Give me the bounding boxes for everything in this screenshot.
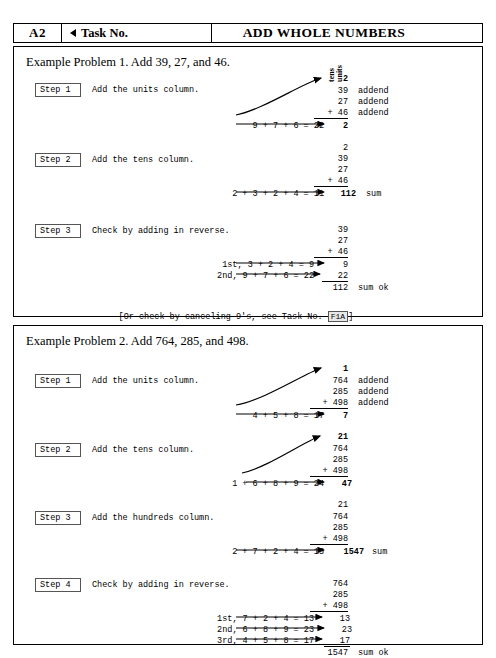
step-label-2: Step 2 [35, 153, 81, 167]
step-label-3: Step 3 [35, 224, 81, 238]
carry-digit-3: 21 [310, 500, 348, 510]
addend-value: 764 [310, 444, 348, 454]
addend-value: + 46 [314, 247, 348, 258]
step-label-2: Step 2 [35, 443, 81, 457]
step-equation-1: 4 + 5 + 8 = 17 [154, 411, 324, 421]
addend-value: 285 [310, 455, 348, 465]
check-result: 22 [322, 271, 348, 282]
check-equation: 2nd, 6 + 8 + 9 = 23 [134, 625, 314, 635]
step-text-1: Add the units column. [92, 85, 199, 95]
step-equation-2: 1 + 6 + 8 + 9 = 24 [124, 479, 324, 489]
worksheet-page: A2 Task No. ADD WHOLE NUMBERS Example Pr… [0, 0, 496, 658]
addend-value: 764 [310, 376, 348, 386]
addend-tag: addend [358, 86, 389, 96]
check-result: 13 [324, 614, 350, 624]
step-text-3: Check by adding in reverse. [92, 226, 230, 236]
addend-value: 27 [314, 165, 348, 175]
step-label-1: Step 1 [35, 374, 81, 388]
addend-value: 39 [314, 86, 348, 96]
triangle-left-icon[interactable] [70, 29, 76, 37]
carry-digit-1: 2 [326, 74, 348, 84]
step-equation-2: 2 + 3 + 2 + 4 = 11 [134, 189, 324, 199]
addend-value: + 498 [310, 601, 348, 612]
check-equation: 1st, 7 + 2 + 4 = 13 [134, 614, 314, 624]
step-label-4: Step 4 [35, 578, 81, 592]
step-result-3: 1547 [326, 547, 364, 557]
check-result: 9 [326, 260, 348, 270]
carry-digit-2: 2 [314, 143, 348, 153]
check-equation: 2nd, 9 + 7 + 6 = 22 [134, 271, 314, 281]
note-prefix: [Or check by canceling 9's, see Task No. [119, 312, 328, 322]
addend-value: + 498 [310, 398, 348, 409]
check-equation: 1st, 3 + 2 + 4 = 9 [134, 260, 314, 270]
addend-value: + 498 [310, 466, 348, 477]
addend-value: 285 [310, 387, 348, 397]
task-no-field[interactable]: Task No. [62, 24, 212, 42]
carry-digit-1: 1 [326, 364, 348, 374]
step-text-1: Add the units column. [92, 376, 199, 386]
addend-value: 285 [310, 590, 348, 600]
step-text-2: Add the tens column. [92, 155, 194, 165]
page-header: A2 Task No. ADD WHOLE NUMBERS [13, 23, 483, 43]
sum-tag: sum [372, 547, 387, 557]
check-total: 1547 [310, 648, 348, 658]
addend-tag: addend [358, 387, 389, 397]
step-label-1: Step 1 [35, 83, 81, 97]
addend-value: 285 [310, 523, 348, 533]
step-equation-3: 2 + 7 + 2 + 4 = 15 [134, 547, 324, 557]
addend-value: + 46 [314, 176, 348, 187]
addend-value: 27 [314, 236, 348, 246]
example-2-title: Example Problem 2. Add 764, 285, and 498… [26, 334, 249, 349]
note-suffix: ] [348, 312, 353, 322]
check-result: 17 [324, 636, 350, 647]
check-total-tag: sum ok [358, 648, 389, 658]
step-text-2: Add the tens column. [92, 445, 194, 455]
sum-tag: sum [366, 189, 381, 199]
check-result: 23 [326, 625, 352, 635]
step-equation-1: 9 + 7 + 6 = 22 [154, 121, 324, 131]
addend-value: 764 [310, 579, 348, 589]
page-title: ADD WHOLE NUMBERS [212, 24, 482, 42]
step-text-4: Check by adding in reverse. [92, 580, 230, 590]
example-problem-1-box: Example Problem 1. Add 39, 27, and 46. t… [13, 46, 483, 317]
step-result-2: 112 [326, 189, 356, 199]
step-result-1: 7 [326, 411, 348, 421]
check-total-tag: sum ok [358, 283, 389, 293]
addend-tag: addend [358, 97, 389, 107]
carry-digit-2: 21 [318, 432, 348, 442]
addend-value: + 498 [310, 534, 348, 545]
step-result-1: 2 [326, 121, 348, 131]
task-code: A2 [14, 24, 62, 42]
addend-value: 39 [314, 154, 348, 164]
addend-value: + 46 [314, 108, 348, 119]
step-result-2: 47 [326, 479, 352, 489]
addend-value: 27 [314, 97, 348, 107]
step-label-3: Step 3 [35, 511, 81, 525]
check-equation: 3rd, 4 + 5 + 8 = 17 [134, 636, 314, 646]
task-ref-f1a[interactable]: F1A [328, 311, 348, 322]
addend-value: 764 [310, 512, 348, 522]
task-no-label: Task No. [81, 26, 128, 41]
example-problem-2-box: Example Problem 2. Add 764, 285, and 498… [13, 325, 483, 645]
addend-tag: addend [358, 398, 389, 408]
addend-value: 39 [314, 225, 348, 235]
example-1-title: Example Problem 1. Add 39, 27, and 46. [26, 55, 230, 70]
check-total: 112 [314, 283, 348, 293]
step-text-3: Add the hundreds column. [92, 513, 214, 523]
addend-tag: addend [358, 376, 389, 386]
addend-tag: addend [358, 108, 389, 118]
